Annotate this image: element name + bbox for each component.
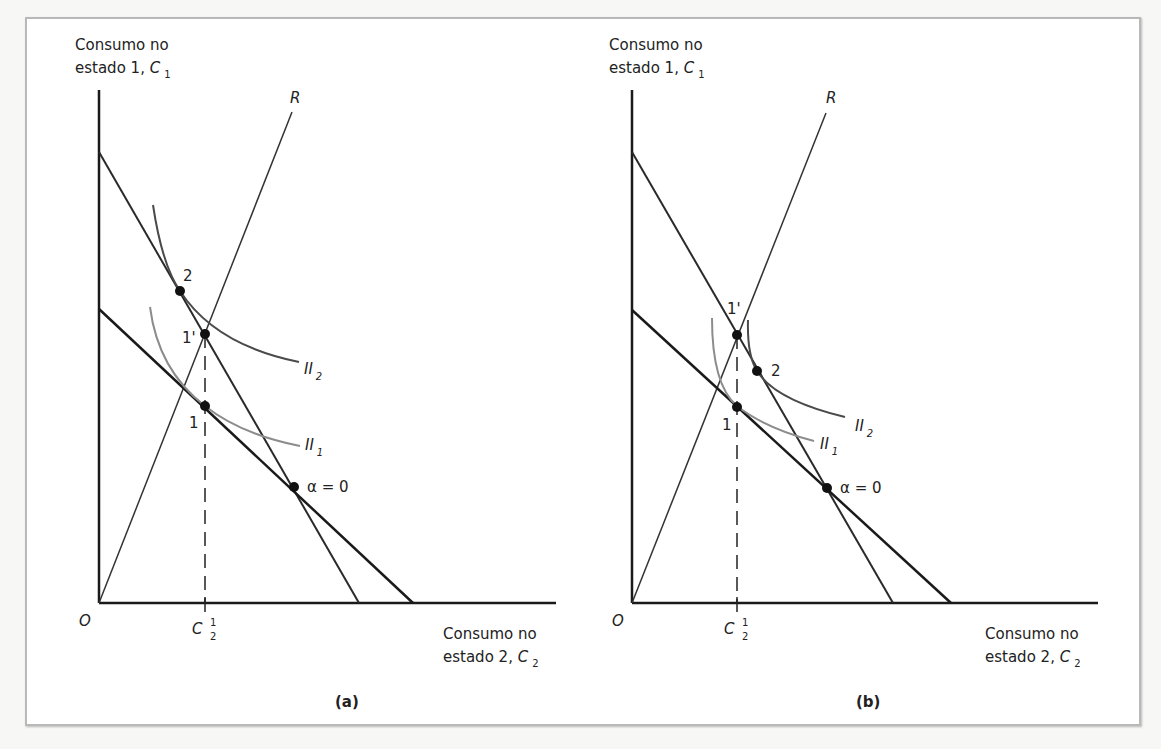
- x-axis-label-line2: estado 2, C2: [985, 648, 1081, 669]
- x-axis-label-line2: estado 2, C2: [443, 648, 539, 669]
- tick-label-c2-1: C: [192, 620, 203, 638]
- point-2: [175, 286, 185, 296]
- point-1: [732, 402, 742, 412]
- panel-b-caption: (b): [856, 693, 880, 711]
- point-1-label: 1: [189, 414, 199, 432]
- alpha-zero-label: α = 0: [840, 479, 882, 497]
- x-axis-label-line1: Consumo no: [443, 625, 537, 643]
- budget-line-initial: [99, 309, 413, 603]
- tick-label-sup: 1: [742, 617, 748, 628]
- ii1-label: II1: [305, 436, 323, 458]
- panel-b: Consumo no estado 1, C1 R II2 II1 1' 2 1…: [609, 36, 1098, 711]
- tick-label-sup: 1: [210, 617, 216, 628]
- point-2-label: 2: [771, 362, 781, 380]
- point-1-label: 1: [722, 416, 732, 434]
- budget-line-initial: [632, 310, 951, 603]
- point-2: [752, 366, 762, 376]
- tick-label-c2-1: C: [724, 620, 735, 638]
- indifference-curve-ii2: [748, 320, 845, 417]
- x-axis-label-line1: Consumo no: [985, 625, 1079, 643]
- ii2-label: II2: [304, 360, 322, 382]
- indifference-curve-ii2: [153, 205, 299, 362]
- origin-label: O: [79, 612, 91, 630]
- y-axis-label-line1: Consumo no: [609, 36, 703, 54]
- tick-label-sub: 2: [210, 631, 216, 642]
- y-axis-label-line1: Consumo no: [75, 36, 169, 54]
- panel-a-caption: (a): [335, 693, 359, 711]
- origin-label: O: [612, 612, 624, 630]
- ii1-label: II1: [820, 435, 838, 457]
- point-alpha-zero: [822, 483, 832, 493]
- ray-r: [99, 112, 292, 603]
- point-1-prime: [200, 329, 210, 339]
- ii2-label: II2: [855, 417, 873, 439]
- point-1-prime: [732, 330, 742, 340]
- alpha-zero-label: α = 0: [307, 478, 349, 496]
- ray-r: [632, 113, 826, 603]
- point-1-prime-label: 1': [182, 329, 196, 347]
- panel-a: Consumo no estado 1, C1 R II2 II1 2 1' 1…: [75, 36, 556, 711]
- figure-canvas: Consumo no estado 1, C1 R II2 II1 2 1' 1…: [0, 0, 1161, 749]
- point-1: [200, 401, 210, 411]
- ray-label: R: [826, 89, 836, 107]
- tick-label-sub: 2: [742, 631, 748, 642]
- point-1-prime-label: 1': [727, 300, 741, 318]
- y-axis-label-line2: estado 1, C1: [609, 59, 705, 80]
- point-2-label: 2: [183, 267, 193, 285]
- ray-label: R: [290, 89, 300, 107]
- point-alpha-zero: [289, 482, 299, 492]
- y-axis-label-line2: estado 1, C1: [75, 59, 171, 80]
